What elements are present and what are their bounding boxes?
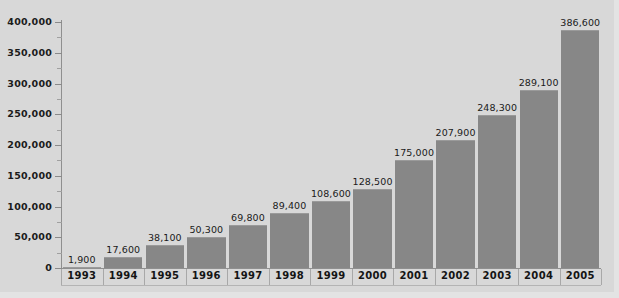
x-axis-tick-label: 2003 <box>476 271 518 281</box>
y-axis-minor-tick <box>57 99 62 100</box>
bar-value-label: 1,900 <box>55 255 109 265</box>
y-axis-tick-label: 0 <box>0 263 52 273</box>
bar <box>395 160 433 268</box>
bar-value-label: 248,300 <box>470 103 524 113</box>
x-axis-tick <box>352 269 353 285</box>
bar <box>104 257 142 268</box>
x-axis-tick-label: 2005 <box>560 271 602 281</box>
x-axis-tick-label: 2004 <box>518 271 560 281</box>
x-axis-tick <box>144 269 145 285</box>
plot-area: 050,000100,000150,000200,000250,000300,0… <box>0 0 614 292</box>
y-axis-minor-tick <box>57 37 62 38</box>
bar <box>312 201 350 268</box>
y-axis-tick <box>55 53 62 54</box>
y-axis-tick-label: 300,000 <box>0 79 52 89</box>
bar-value-label: 207,900 <box>429 128 483 138</box>
y-axis-tick-label: 100,000 <box>0 202 52 212</box>
bar-chart: 050,000100,000150,000200,000250,000300,0… <box>0 0 619 298</box>
bar-value-label: 175,000 <box>387 148 441 158</box>
x-axis-tick-label: 2002 <box>435 271 477 281</box>
y-axis-tick <box>55 22 62 23</box>
x-axis-label-baseline <box>61 285 601 286</box>
y-axis-minor-tick <box>57 191 62 192</box>
x-axis-tick-label: 1993 <box>61 271 103 281</box>
bar-value-label: 89,400 <box>263 201 317 211</box>
y-axis-tick <box>55 237 62 238</box>
bar-value-label: 289,100 <box>512 78 566 88</box>
bar <box>520 90 558 268</box>
bar-value-label: 69,800 <box>221 213 275 223</box>
y-axis-tick-label: 350,000 <box>0 48 52 58</box>
x-axis-tick-label: 2000 <box>352 271 394 281</box>
bar <box>478 115 516 268</box>
bar-value-label: 128,500 <box>346 177 400 187</box>
bar <box>229 225 267 268</box>
bar <box>63 267 101 268</box>
y-axis-tick-label: 200,000 <box>0 140 52 150</box>
x-axis-tick <box>269 269 270 285</box>
y-axis-minor-tick <box>57 130 62 131</box>
y-axis-tick <box>55 84 62 85</box>
x-axis-tick <box>186 269 187 285</box>
x-axis-tick <box>601 269 602 285</box>
y-axis-tick-label: 150,000 <box>0 171 52 181</box>
x-axis-line <box>61 268 601 269</box>
y-axis-minor-tick <box>57 253 62 254</box>
x-axis-tick-label: 1996 <box>186 271 228 281</box>
y-axis-minor-tick <box>57 160 62 161</box>
x-axis-tick <box>476 269 477 285</box>
bar <box>353 189 391 268</box>
bar-value-label: 17,600 <box>97 245 151 255</box>
x-axis-tick-label: 1999 <box>310 271 352 281</box>
bar-value-label: 50,300 <box>180 225 234 235</box>
bar <box>187 237 225 268</box>
x-axis-tick <box>518 269 519 285</box>
bar-value-label: 108,600 <box>304 189 358 199</box>
y-axis-minor-tick <box>57 68 62 69</box>
x-axis-tick <box>560 269 561 285</box>
x-axis-tick <box>310 269 311 285</box>
x-axis-tick-label: 1995 <box>144 271 186 281</box>
y-axis-tick <box>55 207 62 208</box>
x-axis-tick-label: 1998 <box>269 271 311 281</box>
bar <box>146 245 184 268</box>
bar <box>561 30 599 268</box>
x-axis-tick-label: 1994 <box>103 271 145 281</box>
x-axis-tick <box>227 269 228 285</box>
bar <box>270 213 308 268</box>
bar-value-label: 386,600 <box>554 18 608 28</box>
y-axis-tick <box>55 114 62 115</box>
x-axis-tick-label: 2001 <box>393 271 435 281</box>
x-axis-tick-label: 1997 <box>227 271 269 281</box>
bar <box>436 140 474 268</box>
y-axis-tick-label: 50,000 <box>0 233 52 243</box>
y-axis-tick <box>55 145 62 146</box>
y-axis-tick-label: 250,000 <box>0 110 52 120</box>
x-axis-tick <box>61 269 62 285</box>
x-axis-tick <box>435 269 436 285</box>
y-axis-tick <box>55 176 62 177</box>
y-axis-tick-label: 400,000 <box>0 17 52 27</box>
y-axis-minor-tick <box>57 222 62 223</box>
x-axis-tick <box>103 269 104 285</box>
x-axis-tick <box>393 269 394 285</box>
